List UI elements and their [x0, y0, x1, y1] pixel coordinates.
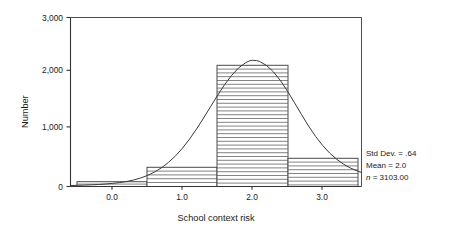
y-axis	[67, 18, 71, 187]
y-tick-label-3000: 3,000	[42, 13, 63, 23]
x-tick-label-1: 1.0	[176, 192, 188, 202]
histogram-bar	[217, 65, 288, 186]
x-tick-labels: 0.0 1.0 2.0 3.0	[106, 192, 328, 202]
x-tick-label-3: 3.0	[316, 192, 328, 202]
std-dev-annotation: Std Dev. = .64	[366, 149, 417, 158]
statistics-annotation: Std Dev. = .64 Mean = 2.0 n = 3103.00	[366, 149, 417, 182]
histogram-figure: 3,000 2,000 1,000 0 Number	[0, 0, 450, 236]
n-annotation-value: = 3103.00	[370, 173, 409, 182]
y-tick-label-2000: 2,000	[42, 65, 63, 75]
x-axis	[71, 187, 362, 190]
y-tick-label-1000: 1,000	[42, 122, 63, 132]
x-tick-label-0: 0.0	[106, 192, 118, 202]
y-tick-labels: 3,000 2,000 1,000 0	[42, 13, 63, 192]
x-tick-label-2: 2.0	[246, 192, 258, 202]
mean-annotation: Mean = 2.0	[366, 161, 407, 170]
x-axis-title: School context risk	[177, 213, 255, 223]
chart-canvas: 3,000 2,000 1,000 0 Number	[0, 0, 450, 236]
histogram-bars	[77, 65, 358, 186]
y-tick-label-0: 0	[58, 182, 63, 192]
histogram-bar	[288, 158, 358, 186]
n-annotation: n = 3103.00	[366, 173, 409, 182]
histogram-bar	[77, 182, 147, 187]
y-axis-title: Number	[20, 95, 30, 128]
